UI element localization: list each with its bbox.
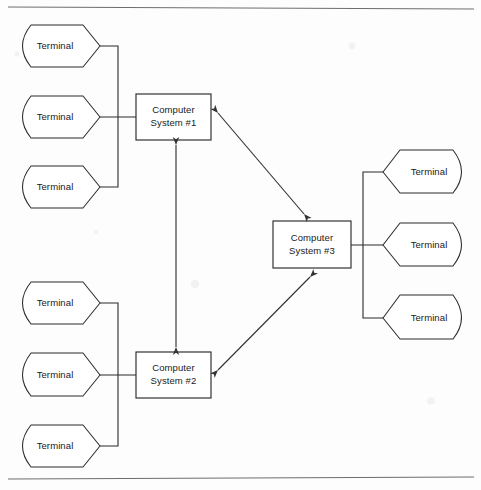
terminal-group-cs2: Terminal Terminal Terminal (23, 282, 101, 467)
system-label-line1: Computer (152, 104, 195, 115)
terminal-node[interactable]: Terminal (23, 282, 101, 324)
bottom-rule (8, 477, 474, 479)
terminal-node[interactable]: Terminal (23, 25, 101, 67)
system-node-cs3[interactable]: Computer System #3 (273, 221, 351, 268)
bus-group-cs1 (100, 46, 136, 187)
terminal-group-cs1: Terminal Terminal Terminal (23, 25, 101, 208)
terminal-node[interactable]: Terminal (23, 96, 101, 138)
terminal-node[interactable]: Terminal (383, 295, 462, 339)
terminal-label: Terminal (37, 369, 74, 380)
system-node-cs2[interactable]: Computer System #2 (136, 352, 211, 398)
terminal-node[interactable]: Terminal (23, 425, 101, 467)
terminal-label: Terminal (37, 181, 74, 192)
terminal-label: Terminal (411, 312, 448, 323)
terminal-node[interactable]: Terminal (23, 166, 101, 208)
bus-group-cs3 (351, 172, 383, 318)
terminal-label: Terminal (37, 40, 74, 51)
terminal-label: Terminal (411, 239, 448, 250)
terminal-group-cs3: Terminal Terminal Terminal (383, 150, 462, 339)
system-label-line1: Computer (291, 232, 334, 243)
terminal-label: Terminal (37, 111, 74, 122)
link-cs2-cs3[interactable] (218, 277, 310, 370)
terminal-node[interactable]: Terminal (383, 150, 462, 193)
terminal-label: Terminal (37, 297, 74, 308)
link-cs1-cs3[interactable] (218, 113, 304, 214)
terminal-label: Terminal (37, 440, 74, 451)
bus-group-cs2 (100, 303, 136, 446)
top-rule (8, 7, 474, 9)
network-topology-diagram: Terminal Terminal Terminal Terminal Term… (0, 0, 481, 490)
system-node-cs1[interactable]: Computer System #1 (136, 94, 211, 140)
terminal-node[interactable]: Terminal (23, 353, 101, 396)
system-label-line2: System #1 (151, 117, 197, 128)
diagram-page: Terminal Terminal Terminal Terminal Term… (0, 0, 481, 490)
system-label-line1: Computer (152, 362, 195, 373)
system-label-line2: System #2 (151, 375, 197, 386)
system-label-line2: System #3 (289, 245, 335, 256)
terminal-label: Terminal (411, 166, 448, 177)
terminal-node[interactable]: Terminal (383, 223, 462, 266)
